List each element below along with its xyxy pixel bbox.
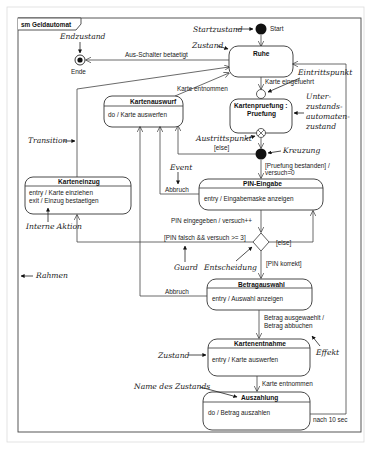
- transition-label-abbruch-betrag: Abbruch: [165, 288, 189, 295]
- annotation-zustand-2: Zustand: [157, 351, 190, 360]
- annotation-startzustand: Startzustand: [193, 25, 243, 34]
- state-kartenentnahme-action: entry / Karte auswerfen: [212, 356, 279, 364]
- state-betragauswahl-action: entry / Auswahl anzeigen: [212, 295, 283, 303]
- annotation-kreuzung: Kreuzung: [282, 146, 320, 155]
- start-label: Start: [270, 25, 284, 32]
- state-pin-eingabe-name: PIN-Eingabe: [243, 180, 282, 188]
- entry-point: [257, 90, 266, 99]
- state-auszahlung-name: Auszahlung: [241, 394, 278, 402]
- transition-label-else-decision: [else]: [276, 239, 291, 247]
- state-karteneinzug-action-1: entry / Karte einziehen: [29, 189, 93, 197]
- transition-label-karte-eingefuehrt: Karte eingefuehrt: [265, 78, 314, 86]
- state-auszahlung-action: do / Betrag auszahlen: [208, 409, 271, 417]
- state-betragauswahl-name: Betragauswahl: [238, 281, 285, 289]
- annotation-unterzustand-2: zustands-: [305, 102, 343, 111]
- transition-label-abbruch-pin: Abbruch: [165, 186, 189, 193]
- annotation-interne-aktion: Interne Aktion: [25, 222, 82, 231]
- annotation-entscheidung: Entscheidung: [203, 263, 257, 272]
- state-karteneinzug-action-2: exit / Einzug bestaetigen: [29, 197, 99, 205]
- annotation-effekt: Effekt: [315, 348, 340, 357]
- state-kartenpruefung-name: Kartenpruefung :: [234, 102, 287, 110]
- state-karteneinzug-name: Karteneinzug: [58, 178, 100, 186]
- state-kartenentnahme-name: Kartenentnahme: [234, 340, 286, 347]
- transition-label-betrag-2: Betrag abbuchen: [264, 322, 313, 330]
- state-pin-eingabe-action: entry / Eingabemaske anzeigen: [204, 195, 294, 203]
- state-kartenauswurf-action: do / Karte auswerfen: [108, 111, 167, 118]
- annotation-unterzustand-3: automaten-: [306, 112, 350, 121]
- junction-node: [256, 149, 267, 160]
- transition-label-else: [else]: [214, 144, 229, 152]
- annotation-unterzustand-4: zustand: [305, 122, 336, 131]
- state-ruhe-name: Ruhe: [253, 50, 270, 57]
- end-node-inner: [77, 57, 82, 62]
- annotation-guard: Guard: [174, 263, 198, 272]
- transition-label-karte-entnommen-2: Karte entnommen: [262, 380, 313, 387]
- annotation-zustand: Zustand: [191, 41, 224, 50]
- annotation-name-des-zustands: Name des Zustands: [133, 382, 210, 391]
- transition-label-pin-falsch: [PIN falsch && versuch >= 3]: [164, 234, 246, 242]
- annotation-austrittspunkt: Austrittspunkt: [195, 134, 253, 143]
- state-kartenpruefung-name-2: Pruefung: [247, 110, 276, 118]
- frame-title: sm Geldautomat: [21, 21, 72, 28]
- start-node: [256, 24, 267, 35]
- annotation-endzustand: Endzustand: [59, 32, 106, 41]
- state-machine-diagram: sm Geldautomat Start Ende Ruhe Aus-Schal…: [0, 0, 371, 450]
- transition-label-pin-eingegeben: PIN eingegeben / versuch++: [171, 217, 252, 225]
- state-kartenauswurf-name: Kartenauswurf: [130, 98, 177, 105]
- annotation-rahmen: Rahmen: [35, 271, 68, 280]
- annotation-transition: Transition: [28, 136, 67, 145]
- annotation-eintrittspunkt: Eintrittspunkt: [297, 68, 353, 77]
- transition-label-pin-korrekt: [PIN korrekt]: [266, 260, 302, 268]
- transition-label-nach-10-sec: nach 10 sec: [313, 416, 348, 423]
- annotation-event: Event: [169, 163, 193, 172]
- annotation-unterzustand-1: Unter-: [306, 92, 331, 101]
- transition-label-karte-entnommen: Karte entnommen: [177, 85, 228, 92]
- end-label: Ende: [71, 68, 86, 75]
- transition-label-aus-schalter: Aus-Schalter betaetigt: [125, 51, 188, 59]
- transition-label-pruefung-2: versuch=0: [265, 169, 295, 176]
- transition-label-betrag-1: Betrag ausgewaehlt /: [264, 314, 324, 322]
